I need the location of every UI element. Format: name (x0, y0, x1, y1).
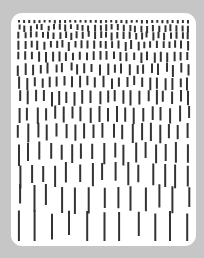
pattern-card (11, 13, 196, 246)
dash-pattern (11, 13, 196, 246)
